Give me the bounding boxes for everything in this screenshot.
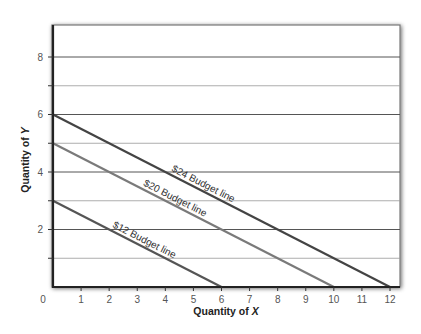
y-axis-title: Quantity of Y xyxy=(19,126,31,192)
x-axis-title: Quantity of X xyxy=(193,305,259,317)
x-tick-label: 5 xyxy=(191,294,197,305)
x-tick-label: 4 xyxy=(163,294,169,305)
x-tick-label: 7 xyxy=(247,294,253,305)
x-tick-label: 10 xyxy=(328,294,340,305)
x-tick-label: 9 xyxy=(303,294,309,305)
y-tick-label: 8 xyxy=(37,52,43,63)
y-tick-label: 2 xyxy=(37,224,43,235)
x-tick-label: 12 xyxy=(384,294,396,305)
plot-area xyxy=(52,25,400,287)
x-tick-label: 2 xyxy=(106,294,112,305)
x-tick-label: 0 xyxy=(40,294,46,305)
x-tick-label: 6 xyxy=(219,294,225,305)
x-tick-label: 3 xyxy=(134,294,140,305)
y-tick-label: 4 xyxy=(37,167,43,178)
x-tick-label: 1 xyxy=(78,294,84,305)
budget-line-chart: 0123456789101112 2468 $24 Budget line$20… xyxy=(0,0,421,334)
x-tick-label: 8 xyxy=(275,294,281,305)
y-axis-ticks: 2468 xyxy=(37,52,53,259)
x-tick-label: 11 xyxy=(357,294,368,305)
x-axis-ticks: 0123456789101112 xyxy=(40,287,396,305)
y-tick-label: 6 xyxy=(37,109,43,120)
